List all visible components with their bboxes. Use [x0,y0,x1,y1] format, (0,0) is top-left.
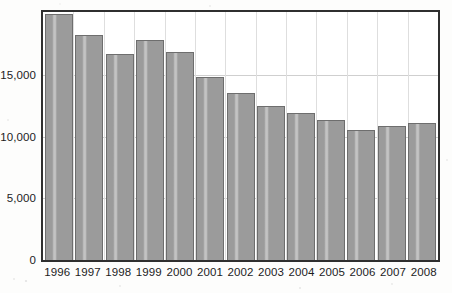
x-axis-tick-label: 2007 [378,266,409,278]
bar-chart: 05,00010,00015,000 199619971998199920002… [0,0,452,293]
x-axis-tick-label: 1998 [103,266,134,278]
x-axis-tick-label: 1996 [42,266,73,278]
x-axis-tick-label: 2008 [408,266,439,278]
bar [378,126,406,260]
x-axis-tick-label: 2001 [195,266,226,278]
bar [45,14,73,260]
bar-slot [104,12,134,260]
x-axis-labels: 1996199719981999200020012002200320042005… [41,266,440,278]
bar [106,54,134,260]
y-axis-tick-label: 0 [30,254,37,266]
bar-slot [195,12,225,260]
bar-slot [286,12,316,260]
bar-slot [346,12,376,260]
x-axis-tick-label: 2005 [317,266,348,278]
bar-slot [165,12,195,260]
x-axis-tick-label: 2002 [225,266,256,278]
bar-slot [225,12,255,260]
x-axis-tick-label: 2004 [286,266,317,278]
x-axis-tick-label: 2006 [347,266,378,278]
x-axis-tick-label: 2003 [256,266,287,278]
bar [287,113,315,260]
bar [257,106,285,260]
bar-slot [316,12,346,260]
x-axis-tick-label: 1999 [134,266,165,278]
bar [408,123,436,260]
x-axis-tick-label: 1997 [73,266,104,278]
bar [196,77,224,260]
bar-slot [256,12,286,260]
bar-slot [74,12,104,260]
x-axis-tick-label: 2000 [164,266,195,278]
bar-slot [407,12,437,260]
bar-series [43,12,438,260]
y-axis-tick-label: 5,000 [7,192,36,204]
bar [347,130,375,260]
bar [317,120,345,260]
bar [136,40,164,260]
bar-slot [44,12,74,260]
bar-slot [135,12,165,260]
bar [166,52,194,260]
y-axis-labels: 05,00010,00015,000 [0,0,36,293]
bar [75,35,103,260]
y-axis-tick-label: 15,000 [0,69,36,81]
y-axis-tick-label: 10,000 [0,131,36,143]
bar-slot [377,12,407,260]
bar [227,93,255,260]
plot-area [41,10,440,262]
